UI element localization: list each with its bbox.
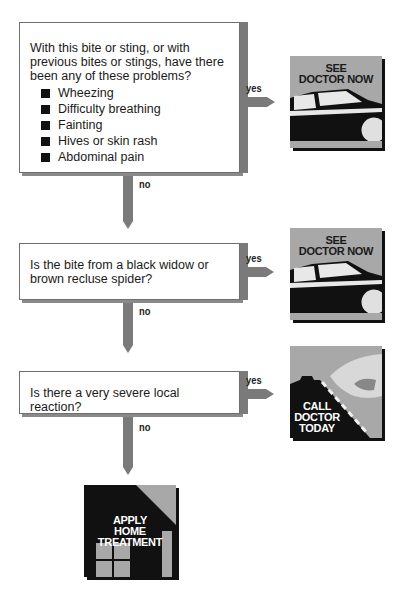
yes-arrow-tip-1 xyxy=(267,97,275,107)
yes-arrow-1 xyxy=(240,97,267,107)
symptom-list: Wheezing Difficulty breathing Fainting H… xyxy=(30,85,229,165)
bullet-square-icon xyxy=(41,89,50,98)
question-box-3: Is there a very severe local reaction? xyxy=(19,371,240,414)
symptom-item: Wheezing xyxy=(41,85,229,101)
no-arrow-tip-2 xyxy=(123,345,133,353)
apply-home-treatment-card: APPLY HOME TREATMENT xyxy=(84,485,176,577)
card-title-line3: TREATMENT xyxy=(84,537,176,548)
yes-label-3: yes xyxy=(246,374,262,386)
see-doctor-now-card-2: SEE DOCTOR NOW xyxy=(290,228,382,320)
bullet-square-icon xyxy=(41,105,50,114)
question-1-text: With this bite or sting, or with previou… xyxy=(30,41,229,83)
question-box-1: With this bite or sting, or with previou… xyxy=(19,22,240,173)
no-label-3: no xyxy=(139,421,150,433)
yes-label-1: yes xyxy=(246,82,262,94)
bullet-square-icon xyxy=(41,121,50,130)
symptom-item: Abdominal pain xyxy=(41,149,229,165)
question-3-text: Is there a very severe local reaction? xyxy=(30,386,229,414)
card-title-line3: TODAY xyxy=(294,423,340,434)
call-doctor-today-card: CALL DOCTOR TODAY xyxy=(290,346,382,438)
yes-arrow-3 xyxy=(240,389,266,399)
yes-arrow-tip-2 xyxy=(266,267,274,277)
no-label-2: no xyxy=(139,305,150,317)
no-arrow-3 xyxy=(123,417,133,467)
question-box-2: Is the bite from a black widow or brown … xyxy=(19,243,240,300)
car-icon xyxy=(290,228,382,320)
symptom-item: Difficulty breathing xyxy=(41,101,229,117)
no-arrow-tip-1 xyxy=(123,221,133,229)
no-arrow-1 xyxy=(123,176,133,221)
bullet-square-icon xyxy=(41,137,50,146)
symptom-item: Hives or skin rash xyxy=(41,133,229,149)
no-arrow-tip-3 xyxy=(123,467,133,475)
see-doctor-now-card-1: SEE DOCTOR NOW xyxy=(290,56,382,148)
question-2-text: Is the bite from a black widow or brown … xyxy=(30,258,229,286)
yes-arrow-2 xyxy=(240,267,266,277)
bullet-square-icon xyxy=(41,153,50,162)
yes-arrow-tip-3 xyxy=(266,389,274,399)
symptom-item: Fainting xyxy=(41,117,229,133)
no-arrow-2 xyxy=(123,303,133,345)
car-icon xyxy=(290,56,382,148)
no-label-1: no xyxy=(139,178,150,190)
yes-label-2: yes xyxy=(246,252,262,264)
